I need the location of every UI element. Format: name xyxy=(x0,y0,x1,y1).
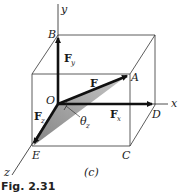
point-label-C: C xyxy=(122,149,131,162)
point-label-E: E xyxy=(31,149,40,162)
figure-caption: Fig. 2.31 xyxy=(1,180,55,193)
vector-label-Fz: F z xyxy=(34,110,45,125)
point-label-D: D xyxy=(151,108,161,121)
vector-label-F: F xyxy=(90,77,98,90)
panel-label: (c) xyxy=(84,166,99,179)
svg-text:y: y xyxy=(70,59,76,67)
vector-label-Fy: F y xyxy=(64,52,76,67)
vector-diagram: y x z B A O D E C F F y F x F z θ z (c) … xyxy=(0,0,180,194)
point-label-A: A xyxy=(130,71,139,84)
axis-label-x: x xyxy=(171,97,178,110)
point-label-O: O xyxy=(46,94,55,107)
vector-label-Fx: F x xyxy=(110,108,121,123)
axis-label-z: z xyxy=(3,166,10,179)
angle-label-theta-z: θ z xyxy=(80,115,90,130)
axis-label-y: y xyxy=(60,3,68,16)
point-label-B: B xyxy=(47,28,56,41)
svg-text:x: x xyxy=(117,115,121,123)
svg-text:z: z xyxy=(85,122,90,130)
svg-text:z: z xyxy=(40,117,45,125)
